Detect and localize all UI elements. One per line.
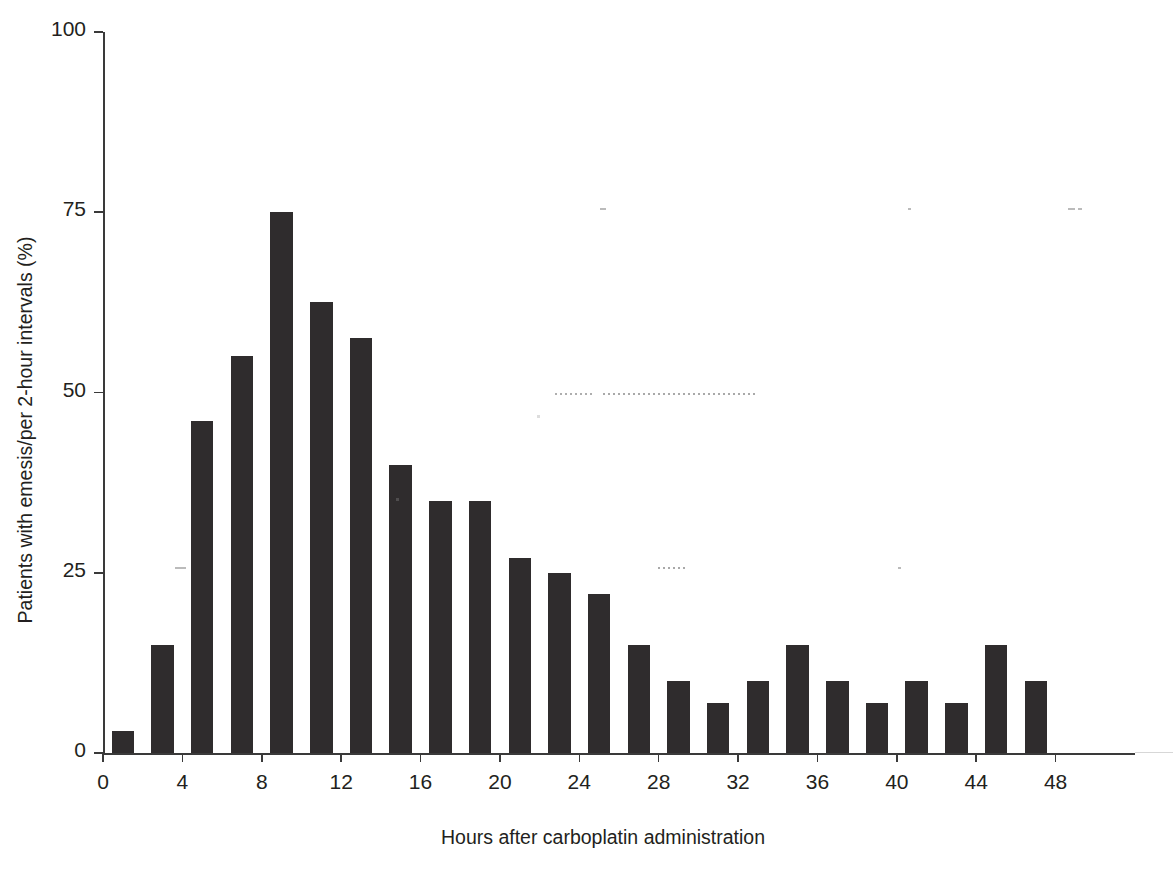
bar [905, 681, 928, 753]
bar [310, 302, 333, 753]
bar [945, 703, 968, 753]
scan-speck [898, 567, 901, 569]
x-tick-28 [658, 753, 660, 762]
x-tick-label-28: 28 [647, 770, 670, 794]
x-tick-label-20: 20 [488, 770, 511, 794]
x-tick-label-8: 8 [256, 770, 268, 794]
bar [389, 465, 412, 753]
x-tick-36 [817, 753, 819, 762]
y-tick-50 [94, 392, 103, 394]
x-tick-label-32: 32 [726, 770, 749, 794]
bar [509, 558, 532, 753]
x-tick-label-16: 16 [409, 770, 432, 794]
bar [429, 501, 452, 753]
bar [866, 703, 889, 753]
y-tick-label-25: 25 [8, 558, 86, 582]
y-axis-line [103, 32, 105, 753]
x-tick-12 [340, 753, 342, 762]
bar [469, 501, 492, 753]
x-tick-8 [261, 753, 263, 762]
bar [786, 645, 809, 753]
chart-figure: Patients with emesis/per 2-hour interval… [0, 0, 1175, 878]
x-tick-16 [420, 753, 422, 762]
scan-speck [600, 208, 606, 210]
x-tick-48 [1055, 753, 1057, 762]
bar [628, 645, 651, 753]
x-axis-line [103, 753, 1135, 755]
x-tick-label-12: 12 [329, 770, 352, 794]
bar [548, 573, 571, 753]
bar [112, 731, 135, 753]
scan-speck [396, 498, 399, 501]
bar [707, 703, 730, 753]
y-tick-label-75: 75 [8, 197, 86, 221]
bar [826, 681, 849, 753]
bar [747, 681, 770, 753]
x-tick-label-40: 40 [885, 770, 908, 794]
x-tick-0 [102, 753, 104, 762]
x-tick-4 [182, 753, 184, 762]
x-tick-label-4: 4 [177, 770, 189, 794]
scan-dotted-line [603, 393, 755, 395]
y-tick-label-50: 50 [8, 378, 86, 402]
y-tick-label-0: 0 [8, 738, 86, 762]
x-tick-label-44: 44 [965, 770, 988, 794]
y-tick-label-100: 100 [8, 17, 86, 41]
bar [270, 212, 293, 753]
plot-area: 0255075100 04812162024283236404448 [103, 32, 1135, 753]
scan-dotted-line [555, 393, 593, 395]
bar [588, 594, 611, 753]
y-tick-75 [94, 211, 103, 213]
scan-speck [1078, 208, 1082, 210]
scan-speck [1068, 208, 1075, 210]
x-tick-24 [579, 753, 581, 762]
bar [151, 645, 174, 753]
bar [231, 356, 254, 753]
x-axis-title: Hours after carboplatin administration [103, 826, 1103, 849]
x-tick-20 [499, 753, 501, 762]
x-tick-40 [896, 753, 898, 762]
scan-speck [908, 208, 911, 210]
bar [985, 645, 1008, 753]
x-tick-label-24: 24 [568, 770, 591, 794]
bar [1025, 681, 1048, 753]
bar [350, 338, 373, 753]
scan-speck [537, 415, 540, 418]
x-tick-32 [737, 753, 739, 762]
scan-dotted-line [658, 567, 688, 569]
y-tick-25 [94, 572, 103, 574]
x-tick-label-0: 0 [97, 770, 109, 794]
x-tick-label-48: 48 [1044, 770, 1067, 794]
bar [191, 421, 214, 753]
x-tick-label-36: 36 [806, 770, 829, 794]
x-tick-44 [975, 753, 977, 762]
y-tick-100 [94, 31, 103, 33]
axis-tail [1135, 752, 1173, 753]
bar [667, 681, 690, 753]
scan-speck [175, 567, 186, 569]
